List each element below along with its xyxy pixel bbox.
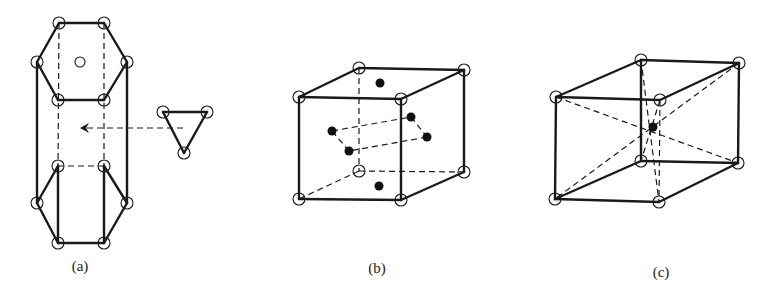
hidden-edge-line — [332, 117, 411, 131]
bond-line — [641, 60, 739, 63]
filled-atom-icon — [407, 113, 416, 122]
bond-line — [738, 63, 739, 163]
bond-line — [37, 203, 58, 243]
bond-line — [641, 161, 738, 163]
panel-a-label: (a) — [72, 258, 89, 275]
figure-canvas — [0, 0, 769, 301]
filled-atom-icon — [376, 79, 385, 88]
open-atom-icon — [75, 57, 85, 67]
bond-line — [556, 97, 660, 100]
filled-atom-icon — [649, 123, 658, 132]
bond-line — [184, 112, 207, 153]
bond-line — [555, 97, 556, 199]
bond-line — [104, 62, 127, 100]
panel-a-hexagonal-prism — [31, 17, 213, 249]
hidden-edge-line — [359, 171, 464, 172]
filled-atom-icon — [423, 133, 432, 142]
filled-atom-icon — [375, 182, 384, 191]
crystal-structure-figure: (a) (b) (c) — [0, 0, 769, 301]
hidden-edge-line — [299, 171, 359, 199]
bond-line — [299, 97, 401, 99]
panel-b-face-centered-cube — [293, 62, 470, 206]
bond-line — [401, 70, 464, 99]
bond-line — [359, 68, 464, 70]
panel-c-label: (c) — [653, 264, 670, 281]
hidden-edge-line — [349, 137, 427, 151]
bond-line — [660, 63, 739, 100]
bond-line — [555, 199, 659, 202]
bond-line — [556, 60, 641, 97]
bond-line — [104, 203, 127, 243]
panel-c-body-centered-cell — [549, 54, 745, 208]
bond-line — [299, 68, 359, 97]
hidden-edge-line — [659, 100, 660, 202]
bond-line — [659, 163, 738, 202]
filled-atom-icon — [345, 147, 354, 156]
bond-line — [104, 23, 127, 62]
bond-line — [299, 199, 401, 200]
hidden-edge-line — [556, 97, 738, 163]
bond-line — [37, 23, 59, 62]
bond-line — [401, 172, 464, 200]
hidden-edge-line — [555, 63, 739, 199]
bond-line — [163, 112, 184, 153]
filled-atom-icon — [328, 127, 337, 136]
panel-b-label: (b) — [368, 260, 386, 277]
